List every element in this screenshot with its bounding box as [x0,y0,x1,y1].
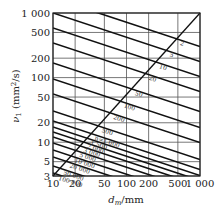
viscosity-nomogram: 25102050100200500n=1 0001 5002 0003 0005… [0,0,224,216]
speed-label: 10 [159,62,169,71]
x-axis-title: dm/mm [108,194,144,207]
y-axis-ticks: 351020501002005001 000 [21,8,50,182]
speed-label: 200 [113,113,126,123]
x-tick-label: 1 000 [186,178,215,189]
x-tick-label: 50 [98,178,111,189]
x-axis-ticks: 1020501002005001 000 [47,178,215,189]
y-tick-label: 5 [44,156,50,167]
y-tick-label: 1 000 [21,8,50,19]
y-tick-label: 10 [37,137,50,148]
y-tick-label: 3 [44,171,50,182]
y-axis-title: ν1 (mm2/s) [10,69,23,123]
speed-label: 500 [101,126,114,136]
y-tick-label: 50 [37,92,50,103]
x-tick-label: 100 [117,178,136,189]
speed-label: 5 [169,51,175,59]
x-tick-label: 20 [69,178,82,189]
speed-label: 20 [148,74,158,83]
speed-label: 100 [123,102,136,112]
y-tick-label: 20 [37,117,50,128]
y-tick-label: 200 [31,53,50,64]
y-tick-label: 500 [31,27,50,38]
x-tick-label: 500 [168,178,187,189]
speed-label: 2 [179,39,185,47]
x-tick-label: 200 [139,178,158,189]
y-tick-label: 100 [31,72,50,83]
